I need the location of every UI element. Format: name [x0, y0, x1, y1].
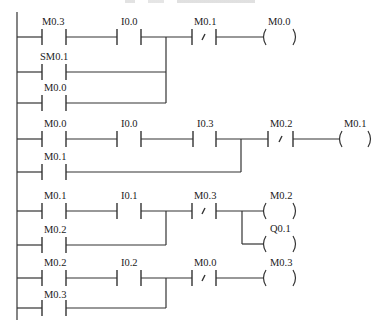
contact-nc-m0-1: M0.1 — [192, 16, 216, 45]
contact-label: M0.2 — [44, 257, 66, 268]
rung-3: M0.1 I0.1 M0.2 M0.3 M0.2 — [17, 190, 296, 253]
coil-m0-0: M0.0 — [264, 16, 296, 45]
contact-nc-m0-3: M0.3 — [192, 190, 216, 219]
coil-q0-1: Q0.1 — [264, 223, 296, 252]
rung-1: M0.3 I0.0 SM0.1 M0.0 M0 — [17, 16, 296, 111]
contact-label: M0.0 — [194, 257, 216, 268]
contact-label: M0.1 — [44, 151, 66, 162]
contact-no-sm0-1: SM0.1 — [40, 51, 68, 80]
contact-no-i0-3: I0.3 — [193, 118, 216, 147]
coil-m0-2: M0.2 — [264, 190, 296, 219]
contact-label: M0.2 — [270, 118, 292, 129]
contact-no-m0-0: M0.0 — [42, 82, 66, 111]
contact-label: I0.2 — [121, 257, 138, 268]
contact-label: I0.0 — [121, 16, 138, 27]
contact-label: I0.1 — [121, 190, 138, 201]
coil-label: Q0.1 — [270, 223, 291, 234]
contact-label: M0.0 — [44, 82, 66, 93]
coil-label: M0.1 — [344, 118, 366, 129]
contact-label: M0.0 — [44, 118, 66, 129]
rung-4: M0.2 I0.2 M0.3 M0.0 M0.3 — [17, 257, 296, 316]
contact-no-m0-1: M0.1 — [42, 151, 66, 180]
coil-label: M0.3 — [270, 257, 292, 268]
contact-no-i0-0: I0.0 — [117, 16, 141, 45]
contact-no-m0-3: M0.3 — [42, 16, 66, 45]
rung-2: M0.0 I0.0 I0.3 M0.1 M0.2 — [17, 118, 371, 180]
contact-no-m0-3: M0.3 — [42, 289, 66, 316]
contact-nc-m0-2: M0.2 — [268, 118, 293, 147]
contact-label: M0.1 — [44, 190, 66, 201]
contact-label: M0.3 — [194, 190, 216, 201]
contact-label: M0.3 — [44, 289, 66, 300]
contact-no-m0-2: M0.2 — [42, 224, 66, 253]
contact-label: I0.3 — [197, 118, 214, 129]
contact-label: M0.2 — [44, 224, 66, 235]
coil-label: M0.0 — [268, 16, 290, 27]
contact-no-i0-1: I0.1 — [117, 190, 141, 219]
ladder-diagram: M0.3 I0.0 SM0.1 M0.0 M0 — [0, 0, 381, 334]
contact-no-i0-2: I0.2 — [117, 257, 141, 286]
coil-m0-3: M0.3 — [264, 257, 296, 286]
coil-label: M0.2 — [270, 190, 292, 201]
contact-no-m0-1: M0.1 — [42, 190, 66, 219]
contact-no-m0-2: M0.2 — [42, 257, 66, 286]
contact-no-i0-0: I0.0 — [117, 118, 141, 147]
contact-no-m0-0: M0.0 — [42, 118, 66, 147]
contact-label: SM0.1 — [40, 51, 68, 62]
contact-nc-m0-0: M0.0 — [192, 257, 216, 286]
contact-label: I0.0 — [121, 118, 138, 129]
contact-label: M0.1 — [194, 16, 216, 27]
coil-m0-1: M0.1 — [340, 118, 371, 147]
contact-label: M0.3 — [42, 16, 64, 27]
